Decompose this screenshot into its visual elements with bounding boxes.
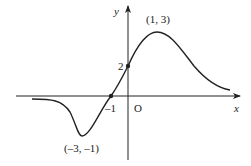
y-intercept-label: 2 bbox=[118, 60, 124, 72]
x-intercept-point bbox=[109, 94, 113, 98]
function-graph: y x O (1, 3) (–3, –1) 2 –1 bbox=[0, 0, 251, 166]
minimum-point-label: (–3, –1) bbox=[64, 142, 99, 155]
y-axis-label: y bbox=[113, 5, 119, 17]
origin-label: O bbox=[134, 102, 142, 114]
maximum-point-label: (1, 3) bbox=[146, 13, 170, 26]
x-axis-label: x bbox=[233, 102, 239, 114]
y-intercept-point bbox=[126, 64, 130, 68]
function-curve bbox=[32, 32, 230, 136]
x-intercept-label: –1 bbox=[104, 102, 116, 114]
